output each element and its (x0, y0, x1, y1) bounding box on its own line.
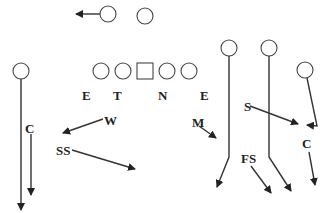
label-nose: N (158, 88, 168, 103)
strong-safety-arrow (72, 150, 135, 169)
corner-right-arrow (309, 152, 315, 185)
label-corner-left: C (25, 121, 34, 136)
free-safety-arrow (251, 166, 271, 193)
will-arrow (63, 119, 103, 133)
label-strong-safety: SS (56, 143, 70, 158)
label-corner-right: C (302, 136, 311, 151)
label-will: W (104, 113, 117, 128)
motion-back-player (100, 6, 116, 22)
label-end-left: E (82, 88, 91, 103)
left-wide-receiver (13, 63, 29, 79)
inside-receiver-1 (221, 40, 237, 56)
label-tackle: T (113, 88, 122, 103)
lineman-player (93, 63, 109, 79)
right-receiver-route (307, 78, 317, 126)
play-diagram: E T N E C W SS M S FS C (0, 0, 331, 213)
lineman-player (115, 63, 131, 79)
right-receiver (297, 62, 313, 78)
center-player (137, 63, 153, 79)
lineman-player (159, 63, 175, 79)
inside-receiver-1-route (217, 56, 229, 187)
label-free-safety: FS (241, 151, 256, 166)
mike-arrow (199, 126, 216, 138)
lineman-player (181, 63, 197, 79)
inside-receiver-2-route (269, 56, 291, 191)
back-player (137, 8, 153, 24)
sam-arrow (250, 106, 298, 124)
inside-receiver-2 (261, 40, 277, 56)
label-end-right: E (200, 88, 209, 103)
